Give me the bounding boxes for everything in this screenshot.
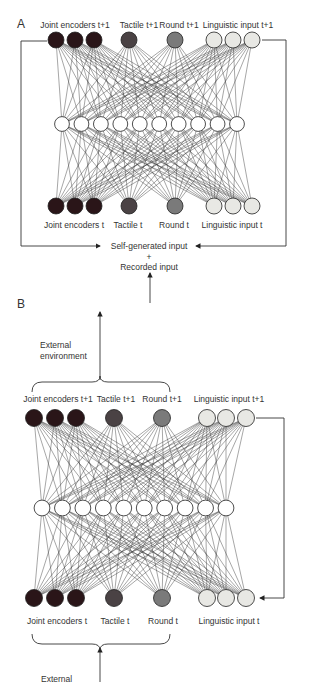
output-node xyxy=(68,410,85,427)
hidden-node xyxy=(198,500,214,516)
hidden-node xyxy=(177,500,193,516)
label-b-tactile-t: Tactile t xyxy=(101,617,130,626)
output-node xyxy=(48,32,64,48)
hidden-node xyxy=(95,500,111,516)
output-node xyxy=(106,410,123,427)
output-node xyxy=(225,32,241,48)
label-b-tactile-t1: Tactile t+1 xyxy=(97,395,136,404)
input-node xyxy=(68,590,85,607)
output-node xyxy=(26,410,43,427)
hidden-node xyxy=(116,500,132,516)
label-a-tactile-t1: Tactile t+1 xyxy=(120,21,159,30)
input-node xyxy=(167,198,183,214)
hidden-node xyxy=(74,117,89,132)
external-environment-label: External environment xyxy=(40,340,96,363)
output-node xyxy=(67,32,83,48)
hidden-node xyxy=(55,117,70,132)
output-node xyxy=(238,410,255,427)
input-node xyxy=(26,590,43,607)
hidden-node xyxy=(171,117,186,132)
hidden-node xyxy=(136,500,152,516)
output-node xyxy=(244,32,260,48)
label-b-joint-t: Joint encoders t xyxy=(27,617,87,626)
label-b-joint-t1: Joint encoders t+1 xyxy=(23,395,93,404)
hidden-node xyxy=(191,117,206,132)
input-node xyxy=(67,198,83,214)
feedback-lines-b xyxy=(32,312,284,682)
label-a-joint-t: Joint encoders t xyxy=(44,221,104,230)
hidden-node xyxy=(157,500,173,516)
output-node xyxy=(218,410,235,427)
hidden-node xyxy=(210,117,225,132)
hidden-node xyxy=(93,117,108,132)
output-node xyxy=(47,410,64,427)
input-node xyxy=(47,590,64,607)
recorded-input-label: Recorded input xyxy=(120,263,178,272)
label-b-linguistic-t1: Linguistic input t+1 xyxy=(194,395,265,404)
hidden-node xyxy=(218,500,234,516)
input-node xyxy=(106,590,123,607)
label-a-tactile-t: Tactile t xyxy=(114,221,143,230)
hidden-node xyxy=(230,117,245,132)
external-input-label: External xyxy=(41,674,72,685)
label-a-linguistic-t: Linguistic input t xyxy=(202,221,263,230)
panel-label-a: A xyxy=(17,18,25,30)
output-node xyxy=(199,410,216,427)
input-node xyxy=(238,590,255,607)
input-node xyxy=(244,198,260,214)
hidden-node xyxy=(34,500,50,516)
input-node xyxy=(218,590,235,607)
hidden-node xyxy=(75,500,91,516)
label-b-round-t1: Round t+1 xyxy=(142,395,181,404)
panel-label-b: B xyxy=(17,298,25,310)
label-a-round-t: Round t xyxy=(159,221,189,230)
hidden-node xyxy=(132,117,147,132)
plus-label: + xyxy=(147,253,152,262)
label-a-joint-t1: Joint encoders t+1 xyxy=(40,21,110,30)
output-node xyxy=(167,32,183,48)
output-node xyxy=(121,32,137,48)
label-a-round-t1: Round t+1 xyxy=(159,21,198,30)
label-b-linguistic-t: Linguistic input t xyxy=(199,617,260,626)
input-node xyxy=(206,198,222,214)
label-b-round-t: Round t xyxy=(148,617,178,626)
hidden-node xyxy=(113,117,128,132)
input-node xyxy=(86,198,102,214)
output-node xyxy=(206,32,222,48)
input-node xyxy=(199,590,216,607)
self-generated-input-label: Self-generated input xyxy=(111,242,188,251)
output-node xyxy=(154,410,171,427)
hidden-node xyxy=(55,500,71,516)
hidden-node xyxy=(152,117,167,132)
input-node xyxy=(121,198,137,214)
input-node xyxy=(154,590,171,607)
output-node xyxy=(86,32,102,48)
label-a-linguistic-t1: Linguistic input t+1 xyxy=(203,21,274,30)
input-node xyxy=(225,198,241,214)
input-node xyxy=(48,198,64,214)
